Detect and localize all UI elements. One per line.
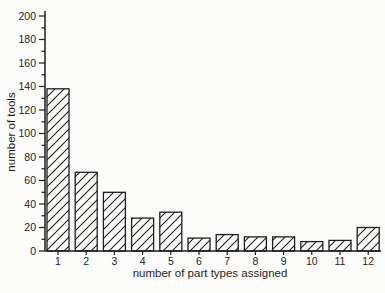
- x-tick-label: 3: [111, 255, 117, 267]
- bar: [216, 235, 238, 251]
- x-axis-ticks: 123456789101112: [55, 251, 374, 267]
- x-tick-label: 7: [224, 255, 230, 267]
- x-tick-label: 8: [252, 255, 258, 267]
- y-tick-label: 160: [18, 57, 36, 69]
- y-tick-label: 20: [24, 221, 36, 233]
- histogram-figure: 0204060801001201401601802001234567891011…: [0, 0, 385, 293]
- bar: [160, 212, 182, 251]
- x-tick-label: 1: [55, 255, 61, 267]
- bar: [273, 237, 295, 251]
- y-tick-label: 40: [24, 198, 36, 210]
- y-tick-label: 0: [30, 245, 36, 257]
- y-tick-label: 60: [24, 174, 36, 186]
- x-axis-title: number of part types assigned: [133, 267, 288, 279]
- bar: [357, 228, 379, 252]
- bar: [329, 240, 351, 251]
- bar: [75, 172, 97, 251]
- bar: [301, 242, 323, 251]
- bar: [188, 238, 210, 251]
- bar: [47, 89, 69, 251]
- y-tick-label: 180: [18, 33, 36, 45]
- x-tick-label: 10: [306, 255, 318, 267]
- bar-chart-canvas: 0204060801001201401601802001234567891011…: [0, 0, 385, 293]
- bar: [132, 218, 154, 251]
- x-tick-label: 11: [335, 255, 346, 267]
- x-tick-label: 2: [83, 255, 89, 267]
- y-tick-label: 200: [18, 10, 36, 22]
- y-axis-title: number of tools: [5, 92, 17, 172]
- y-tick-label: 80: [24, 151, 36, 163]
- x-tick-label: 12: [362, 255, 374, 267]
- y-tick-label: 140: [18, 80, 36, 92]
- bar: [244, 237, 266, 251]
- x-tick-label: 6: [196, 255, 202, 267]
- x-tick-label: 4: [140, 255, 146, 267]
- x-tick-label: 5: [168, 255, 174, 267]
- y-tick-label: 120: [18, 104, 36, 116]
- y-tick-label: 100: [18, 127, 36, 139]
- bars-group: [47, 89, 379, 251]
- y-axis-ticks: 020406080100120140160180200: [18, 10, 45, 257]
- bar: [103, 192, 125, 251]
- x-tick-label: 9: [281, 255, 287, 267]
